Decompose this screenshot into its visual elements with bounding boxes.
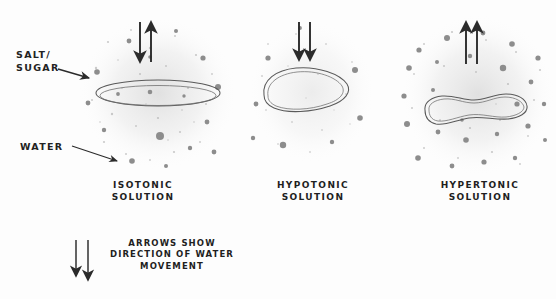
- salt-sugar-line1: SALT/: [16, 49, 60, 62]
- salt-sugar-pointer-arrow: [58, 69, 89, 78]
- caption-hypotonic: HYPOTONIC SOLUTION: [248, 179, 378, 203]
- panel-hypotonic-artwork: [248, 20, 376, 164]
- label-salt-sugar: SALT/ SUGAR: [16, 49, 60, 75]
- panel-isotonic-artwork: [78, 15, 238, 171]
- legend-line2: DIRECTION OF WATER: [96, 249, 248, 260]
- label-water: WATER: [20, 141, 63, 154]
- hypertonic-line2: SOLUTION: [412, 191, 548, 203]
- isotonic-cell-outline: [96, 80, 220, 106]
- isotonic-line1: ISOTONIC: [78, 179, 208, 191]
- hypertonic-cell-outline: [425, 94, 527, 124]
- hypotonic-solute-particles: [251, 26, 363, 148]
- panel-hypertonic-artwork: [400, 13, 556, 177]
- water-pointer-arrow: [72, 146, 117, 161]
- hypertonic-solute-particles: [401, 31, 547, 169]
- isotonic-solute-particles: [86, 29, 221, 168]
- caption-isotonic: ISOTONIC SOLUTION: [78, 179, 208, 203]
- diagram-artwork: [0, 0, 556, 299]
- salt-sugar-line2: SUGAR: [16, 62, 60, 75]
- hypotonic-line1: HYPOTONIC: [248, 179, 378, 191]
- caption-hypertonic: HYPERTONIC SOLUTION: [412, 179, 548, 203]
- hypotonic-cell-outline: [264, 68, 349, 112]
- hypotonic-line2: SOLUTION: [248, 191, 378, 203]
- legend-line1: ARROWS SHOW: [96, 238, 248, 249]
- isotonic-line2: SOLUTION: [78, 191, 208, 203]
- legend-line3: MOVEMENT: [96, 261, 248, 272]
- legend-text: ARROWS SHOW DIRECTION OF WATER MOVEMENT: [96, 238, 248, 272]
- water-line1: WATER: [20, 141, 63, 154]
- diagram-canvas: SALT/ SUGAR WATER ISOTONIC SOLUTION HYPO…: [0, 0, 556, 299]
- hypertonic-line1: HYPERTONIC: [412, 179, 548, 191]
